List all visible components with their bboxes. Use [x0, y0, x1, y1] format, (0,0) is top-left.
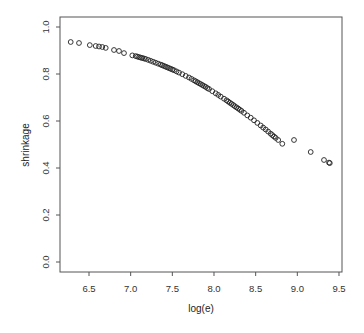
data-points: [68, 40, 332, 166]
y-axis-title: shrinkage: [20, 123, 31, 167]
x-tick-label: 8.0: [207, 283, 220, 294]
data-point: [87, 43, 92, 48]
plot-frame: [60, 17, 342, 272]
y-tick-label: 0.6: [40, 114, 51, 127]
y-tick-label: 0.2: [40, 208, 51, 221]
data-point: [100, 45, 105, 50]
y-tick-label: 0.0: [40, 255, 51, 268]
y-tick-label: 0.8: [40, 67, 51, 80]
x-tick-label: 8.5: [249, 283, 262, 294]
data-point: [252, 118, 257, 123]
y-tick-label: 0.4: [40, 161, 51, 174]
y-tick-label: 1.0: [40, 20, 51, 33]
data-point: [322, 158, 327, 163]
data-point: [103, 46, 108, 51]
x-tick-label: 6.5: [82, 283, 95, 294]
data-point: [122, 51, 127, 56]
data-point: [117, 49, 122, 54]
data-point: [245, 113, 250, 118]
plot-area: [60, 17, 342, 272]
data-point: [280, 141, 285, 146]
x-tick-label: 9.5: [332, 283, 345, 294]
data-point: [248, 115, 253, 120]
x-axis: 6.57.07.58.08.59.09.5: [82, 272, 345, 294]
data-point: [112, 48, 117, 53]
y-axis: 0.00.20.40.60.81.0: [40, 20, 60, 268]
x-tick-label: 7.5: [166, 283, 179, 294]
data-point: [77, 41, 82, 46]
x-tick-label: 9.0: [291, 283, 304, 294]
data-point: [292, 138, 297, 143]
x-tick-label: 7.0: [124, 283, 137, 294]
x-axis-title: log(e): [188, 303, 214, 314]
data-point: [308, 150, 313, 155]
scatter-chart: 6.57.07.58.08.59.09.5 0.00.20.40.60.81.0…: [0, 0, 364, 333]
data-point: [68, 40, 73, 45]
